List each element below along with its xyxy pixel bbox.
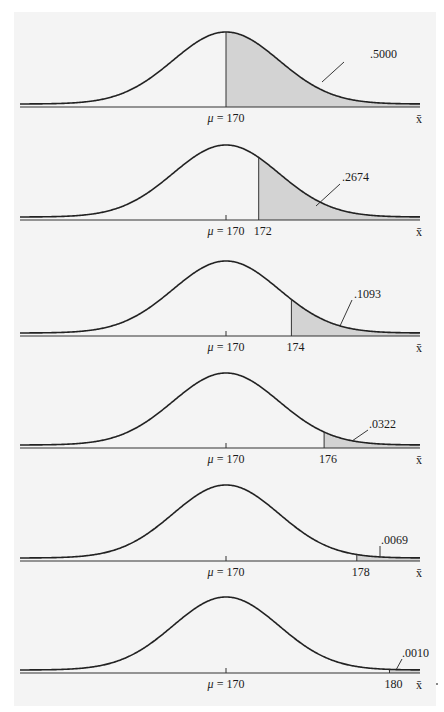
- area-probability-label: .1093: [354, 287, 381, 301]
- x-bar-axis-label: x̄: [416, 453, 422, 467]
- mean-label: μ = 170: [207, 224, 245, 238]
- area-probability-label: .5000: [370, 47, 397, 61]
- cutoff-label: 174: [286, 340, 304, 354]
- shaded-tail-area: [226, 32, 420, 107]
- cutoff-label: 178: [352, 565, 370, 579]
- normal-curve: [20, 373, 420, 445]
- annotation-leader-line: [352, 430, 368, 441]
- normal-curve: [20, 32, 420, 104]
- mean-label: μ = 170: [207, 452, 245, 466]
- x-bar-axis-label: x̄: [416, 225, 422, 239]
- cutoff-label: 176: [319, 452, 337, 466]
- area-probability-label: .0010: [402, 646, 429, 660]
- area-probability-label: .0069: [381, 533, 408, 547]
- x-bar-axis-label: x̄: [416, 678, 422, 692]
- mean-label: μ = 170: [207, 340, 245, 354]
- mean-label: μ = 170: [207, 677, 245, 691]
- annotation-leader-line: [396, 659, 402, 670]
- x-bar-axis-label: x̄: [416, 566, 422, 580]
- shaded-tail-area: [324, 432, 420, 448]
- annotation-leader-line: [316, 184, 340, 206]
- normal-curve: [20, 597, 420, 670]
- mean-label: μ = 170: [207, 565, 245, 579]
- cutoff-label: 172: [254, 224, 272, 238]
- x-bar-axis-label: x̄: [416, 341, 422, 355]
- shaded-tail-area: [259, 157, 420, 220]
- area-probability-label: .0322: [369, 417, 396, 431]
- stray-mark: [436, 683, 438, 685]
- annotation-leader-line: [340, 300, 352, 326]
- mean-label: μ = 170: [207, 111, 245, 125]
- normal-curve-figure: μ = 170x̄.5000μ = 170172x̄.2674μ = 17017…: [0, 0, 444, 712]
- normal-curve: [20, 485, 420, 558]
- cutoff-label: 180: [385, 677, 403, 691]
- annotation-leader-line: [322, 62, 344, 82]
- area-probability-label: .2674: [342, 170, 369, 184]
- x-bar-axis-label: x̄: [416, 112, 422, 126]
- shaded-tail-area: [291, 299, 420, 336]
